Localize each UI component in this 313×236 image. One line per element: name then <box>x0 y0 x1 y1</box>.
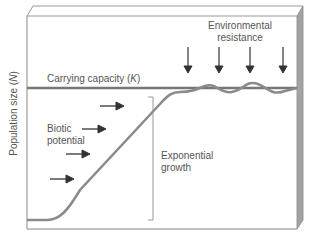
carrying-capacity-label: Carrying capacity (K) <box>47 73 140 85</box>
y-axis-label: Population size (N) <box>8 59 19 169</box>
frame-top-bevel <box>27 6 303 16</box>
environmental-resistance-label: Environmental resistance <box>200 20 280 44</box>
environmental-resistance-arrows <box>184 47 287 73</box>
biotic-potential-label: Biotic potential <box>47 123 85 147</box>
frame-side-panel <box>297 6 303 229</box>
exponential-growth-label: Exponential growth <box>161 150 213 174</box>
